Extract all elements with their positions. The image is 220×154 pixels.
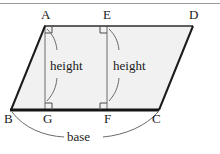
base-arc-left [12, 112, 64, 137]
parallelogram-fill [11, 26, 193, 110]
vertex-label-B: B [4, 112, 13, 125]
vertex-label-D: D [189, 8, 198, 21]
vertex-label-C: C [152, 112, 161, 125]
height-label-right: height [113, 59, 146, 72]
parallelogram-figure [0, 0, 220, 154]
diagram-canvas: A E D B G F C height height base [0, 0, 220, 154]
height-label-left: height [50, 59, 83, 72]
vertex-label-A: A [41, 8, 50, 21]
vertex-label-E: E [103, 8, 111, 21]
base-label: base [67, 130, 90, 143]
vertex-label-G: G [43, 112, 52, 125]
vertex-label-F: F [104, 112, 111, 125]
base-arc-right [103, 112, 158, 137]
